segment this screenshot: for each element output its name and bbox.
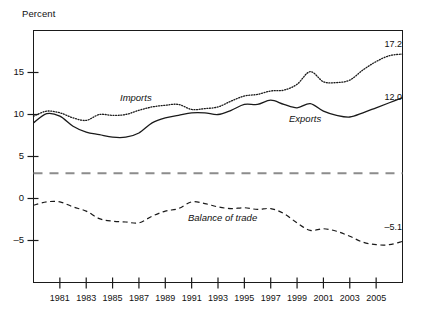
end-value-exports: 12.0 <box>368 92 402 102</box>
y-tick-label-5: 5 <box>2 150 24 161</box>
y-tick-label-15: 15 <box>2 66 24 77</box>
trade-percent-line-chart: Percent 151050–5 19811983198519871989199… <box>0 0 433 317</box>
plot-frame <box>34 31 403 283</box>
y-tick-label-0: 0 <box>2 192 24 203</box>
x-tick-label-2005: 2005 <box>359 293 393 303</box>
series-label-balance-of-trade: Balance of trade <box>188 212 257 223</box>
series-line-imports <box>34 54 403 120</box>
y-tick-label-neg5: –5 <box>2 234 24 245</box>
series-label-imports: Imports <box>120 92 152 103</box>
series-line-exports <box>34 98 403 138</box>
end-value-imports: 17.2 <box>368 39 402 49</box>
series-line-balance-of-trade <box>34 201 403 245</box>
y-tick-label-10: 10 <box>2 108 24 119</box>
series-label-exports: Exports <box>289 113 321 124</box>
end-value-balance-of-trade: –5.1 <box>368 222 402 232</box>
